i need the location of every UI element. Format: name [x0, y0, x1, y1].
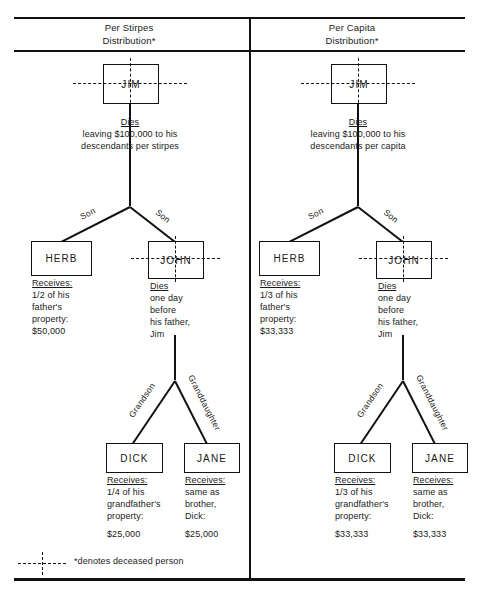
connector-john-stem [402, 335, 404, 380]
caption-jane-right: Receives: same as brother, Dick: [413, 474, 453, 522]
figure-canvas: Per Stirpes Distribution* Per Capita Dis… [0, 0, 479, 597]
caption-line: grandfather's [107, 498, 161, 510]
person-box-dick-right: DICK [334, 443, 391, 473]
bottom-rule [14, 578, 465, 581]
caption-amount: $33,333 [413, 528, 446, 540]
edge-label-son-right: Son [382, 207, 401, 225]
caption-jim-left: Dies leaving $100,000 to his descendants… [25, 116, 235, 152]
caption-line: leaving $100,000 to his [253, 128, 463, 140]
caption-line: leaving $100,000 to his [25, 128, 235, 140]
caption-label: Receives: [185, 474, 225, 486]
caption-john-left: Dies one day before his father, Jim [150, 280, 190, 340]
caption-line: 1/3 of his [335, 486, 389, 498]
caption-line: 1/4 of his [107, 486, 161, 498]
edge-label-son-left: Son [306, 205, 325, 221]
dashed-cross-deceased-marker-icon [18, 552, 70, 576]
caption-dick-right: Receives: 1/3 of his grandfather's prope… [335, 474, 389, 522]
caption-john-right: Dies one day before his father, Jim [378, 280, 418, 340]
caption-line: same as [185, 486, 225, 498]
caption-jim-right: Dies leaving $100,000 to his descendants… [253, 116, 463, 152]
deceased-marker-vertical [358, 58, 359, 108]
caption-line: before [150, 304, 190, 316]
person-box-jim-left: JIM [103, 64, 159, 104]
connector-jim-to-john [129, 206, 175, 243]
caption-label: Receives: [107, 474, 161, 486]
person-box-herb-right: HERB [259, 241, 320, 276]
caption-line: his father, [378, 316, 418, 328]
person-box-herb-left: HERB [31, 241, 92, 276]
caption-line: property: [107, 510, 161, 522]
caption-line: property: [260, 313, 300, 325]
person-box-jim-right: JIM [331, 64, 387, 104]
column-header-line2: Distribution* [14, 34, 244, 47]
caption-label: Dies [378, 280, 418, 292]
caption-herb-right: Receives: 1/3 of his father's property: … [260, 277, 300, 337]
caption-line: Dick: [413, 510, 453, 522]
caption-line: father's [260, 301, 300, 313]
caption-label: Receives: [413, 474, 453, 486]
person-name: DICK [348, 453, 376, 464]
caption-line: descendants per capita [253, 140, 463, 152]
top-rule [14, 17, 465, 19]
caption-line: grandfather's [335, 498, 389, 510]
caption-label: Dies [349, 117, 367, 127]
person-name: JOHN [160, 255, 192, 266]
edge-label-son-left: Son [78, 205, 97, 221]
caption-line: one day [150, 292, 190, 304]
person-name: HERB [273, 253, 305, 264]
caption-amount: $25,000 [185, 528, 218, 540]
caption-line: his father, [150, 316, 190, 328]
caption-line: before [378, 304, 418, 316]
amount-dick-left: $25,000 [107, 528, 140, 540]
caption-line: property: [335, 510, 389, 522]
caption-label: Receives: [32, 277, 72, 289]
amount-dick-right: $33,333 [335, 528, 368, 540]
caption-label: Dies [150, 280, 190, 292]
amount-jane-right: $33,333 [413, 528, 446, 540]
caption-amount: $33,333 [260, 325, 300, 337]
caption-amount: $25,000 [107, 528, 140, 540]
caption-line: Jim [378, 328, 418, 340]
caption-label: Receives: [335, 474, 389, 486]
caption-jane-left: Receives: same as brother, Dick: [185, 474, 225, 522]
footnote-text: *denotes deceased person [74, 556, 183, 566]
caption-line: descendants per stirpes [25, 140, 235, 152]
deceased-marker-vertical [130, 58, 131, 108]
caption-amount: $33,333 [335, 528, 368, 540]
connector-jim-to-john [357, 206, 403, 243]
column-header-per-capita: Per Capita Distribution* [237, 21, 467, 47]
caption-line: same as [413, 486, 453, 498]
connector-john-stem [174, 335, 176, 380]
person-name: DICK [120, 453, 148, 464]
caption-line: property: [32, 313, 72, 325]
person-name: JOHN [388, 255, 420, 266]
column-header-line1: Per Capita [237, 21, 467, 34]
caption-line: one day [378, 292, 418, 304]
caption-dick-left: Receives: 1/4 of his grandfather's prope… [107, 474, 161, 522]
person-box-dick-left: DICK [106, 443, 163, 473]
person-name: JANE [197, 453, 227, 464]
caption-herb-left: Receives: 1/2 of his father's property: … [32, 277, 72, 337]
person-name: HERB [45, 253, 77, 264]
column-header-per-stirpes: Per Stirpes Distribution* [14, 21, 244, 47]
caption-line: 1/2 of his [32, 289, 72, 301]
edge-label-granddaughter-right: Granddaughter [414, 373, 451, 432]
caption-label: Dies [121, 117, 139, 127]
caption-amount: $50,000 [32, 325, 72, 337]
person-box-john-right: JOHN [376, 241, 432, 279]
caption-line: brother, [185, 498, 225, 510]
caption-line: 1/3 of his [260, 289, 300, 301]
deceased-marker-vertical [175, 236, 176, 282]
column-divider [249, 17, 251, 578]
edge-label-son-right: Son [154, 207, 173, 225]
column-header-line2: Distribution* [237, 34, 467, 47]
edge-label-granddaughter-left: Granddaughter [186, 373, 223, 432]
amount-jane-left: $25,000 [185, 528, 218, 540]
caption-line: Jim [150, 328, 190, 340]
column-header-line1: Per Stirpes [14, 21, 244, 34]
caption-line: brother, [413, 498, 453, 510]
person-box-jane-left: JANE [184, 443, 240, 473]
person-box-jane-right: JANE [412, 443, 468, 473]
caption-label: Receives: [260, 277, 300, 289]
header-underrule [14, 50, 465, 52]
